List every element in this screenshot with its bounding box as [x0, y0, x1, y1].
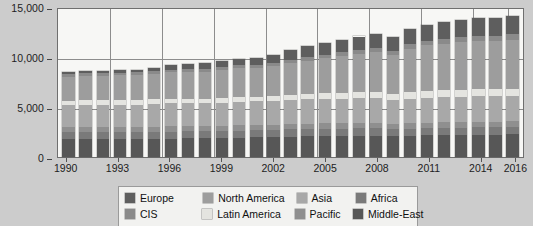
- bar-segment: [319, 129, 331, 136]
- bar-segment: [79, 105, 91, 127]
- bar-segment: [353, 98, 365, 123]
- stacked-bar[interactable]: [353, 36, 365, 157]
- bar-slot: [316, 9, 333, 157]
- legend-item-middle-east[interactable]: Middle-East: [353, 208, 411, 220]
- stacked-bar[interactable]: [199, 63, 211, 157]
- bar-segment: [472, 41, 484, 89]
- stacked-bar[interactable]: [114, 70, 126, 157]
- stacked-bar[interactable]: [472, 18, 484, 157]
- bar-slot: [265, 9, 282, 157]
- bar-segment: [148, 104, 160, 127]
- stacked-bar[interactable]: [233, 59, 245, 157]
- bar-segment: [131, 132, 143, 139]
- legend-swatch-icon: [353, 209, 363, 219]
- legend-item-asia[interactable]: Asia: [297, 192, 356, 204]
- bar-segment: [267, 66, 279, 95]
- bar-segment: [421, 128, 433, 135]
- bar-segment: [404, 136, 416, 157]
- bar-segment: [284, 63, 296, 94]
- bar-segment: [421, 135, 433, 157]
- bar-segment: [182, 138, 194, 157]
- plot-area: [57, 8, 524, 158]
- stacked-bar[interactable]: [301, 46, 313, 157]
- stacked-bar[interactable]: [455, 20, 467, 157]
- bar-segment: [301, 46, 313, 56]
- stacked-bar[interactable]: [165, 65, 177, 158]
- legend-item-europe[interactable]: Europe: [125, 192, 203, 204]
- x-axis-tick-mark: [221, 158, 222, 162]
- stacked-bar[interactable]: [489, 18, 501, 157]
- stacked-bar[interactable]: [62, 72, 74, 157]
- y-axis: 05,00010,00015,000: [0, 0, 52, 165]
- chart-legend: EuropeNorth AmericaAsiaAfricaCISLatin Am…: [118, 186, 418, 226]
- bar-segment: [267, 130, 279, 137]
- bar-segment: [404, 99, 416, 124]
- bar-segment: [182, 103, 194, 126]
- stacked-bar[interactable]: [148, 68, 160, 158]
- stacked-bar[interactable]: [404, 29, 416, 157]
- y-axis-tick-label: 5,000: [17, 102, 52, 114]
- bar-segment: [387, 100, 399, 124]
- bar-segment: [353, 136, 365, 157]
- bar-segment: [148, 132, 160, 139]
- bar-segment: [79, 132, 91, 139]
- bar-segment: [438, 44, 450, 90]
- bar-segment: [250, 130, 262, 137]
- bar-segment: [165, 103, 177, 126]
- x-axis-tick-label: 2014: [469, 162, 492, 174]
- bar-segment: [387, 136, 399, 157]
- bar-slot: [350, 9, 367, 157]
- bar-segment: [421, 25, 433, 41]
- stacked-bar[interactable]: [319, 43, 331, 157]
- legend-item-north-america[interactable]: North America: [203, 192, 296, 204]
- stacked-bar[interactable]: [421, 25, 433, 158]
- stacked-bar[interactable]: [438, 22, 450, 157]
- bar-segment: [472, 18, 484, 35]
- bar-segment: [301, 61, 313, 94]
- x-axis-tick-mark: [66, 158, 67, 162]
- bar-segment: [233, 68, 245, 97]
- stacked-bar[interactable]: [284, 50, 296, 157]
- bar-segment: [387, 55, 399, 94]
- legend-label: Europe: [140, 192, 174, 204]
- bar-segment: [79, 139, 91, 157]
- x-axis-tick-label: 1993: [106, 162, 129, 174]
- stacked-bar[interactable]: [336, 40, 348, 157]
- stacked-bar[interactable]: [387, 37, 399, 158]
- bar-segment: [216, 103, 228, 126]
- x-axis: 1990199319961999200220052008201120142016: [57, 158, 524, 180]
- bar-segment: [404, 49, 416, 92]
- legend-item-pacific[interactable]: Pacific: [295, 208, 353, 220]
- bar-segment: [114, 139, 126, 157]
- bar-slot: [470, 9, 487, 157]
- bar-slot: [248, 9, 265, 157]
- bar-slot: [367, 9, 384, 157]
- bar-segment: [97, 132, 109, 139]
- bar-slot: [60, 9, 77, 157]
- plot-area-wrapper: 05,00010,00015,000 199019931996199920022…: [0, 0, 533, 180]
- stacked-bar[interactable]: [131, 70, 143, 158]
- stacked-bar[interactable]: [216, 61, 228, 157]
- stacked-bar[interactable]: [370, 34, 382, 158]
- bar-segment: [250, 137, 262, 157]
- stacked-bar[interactable]: [97, 71, 109, 157]
- bar-slot: [504, 9, 521, 157]
- bar-segment: [421, 91, 433, 98]
- stacked-bar[interactable]: [506, 16, 518, 157]
- legend-label: North America: [218, 192, 285, 204]
- stacked-bar[interactable]: [182, 64, 194, 158]
- bar-segment: [336, 40, 348, 52]
- stacked-bar[interactable]: [79, 71, 91, 157]
- legend-item-africa[interactable]: Africa: [356, 192, 411, 204]
- bar-segment: [506, 89, 518, 96]
- stacked-bar[interactable]: [267, 55, 279, 157]
- bar-segment: [336, 136, 348, 157]
- bar-slot: [282, 9, 299, 157]
- bar-segment: [131, 75, 143, 100]
- x-axis-tick-mark: [118, 158, 119, 162]
- legend-item-latin-america[interactable]: Latin America: [202, 208, 294, 220]
- y-axis-tick-label: 10,000: [11, 52, 52, 64]
- legend-item-cis[interactable]: CIS: [125, 208, 202, 220]
- bar-segment: [165, 139, 177, 158]
- stacked-bar[interactable]: [250, 58, 262, 158]
